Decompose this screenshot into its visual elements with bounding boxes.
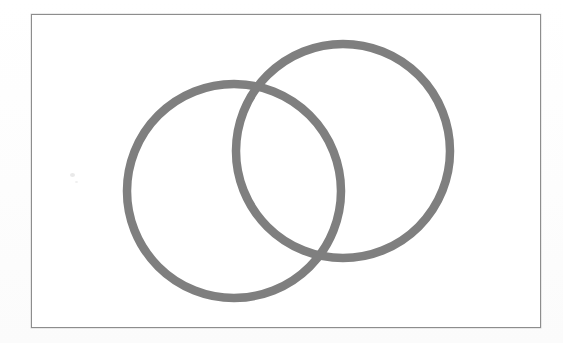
circle-right bbox=[236, 44, 450, 258]
figure-drawing bbox=[0, 0, 563, 343]
circle-left bbox=[127, 84, 341, 298]
figure-page bbox=[0, 0, 563, 343]
